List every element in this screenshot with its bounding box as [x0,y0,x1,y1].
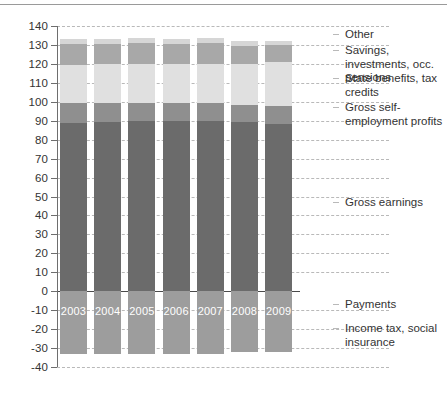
bar-segment [60,39,87,44]
bar-segment [231,41,258,46]
bar-segment [265,124,292,292]
chart-figure: 1401301201101009080706050403020100-10-20… [0,0,447,394]
legend-tick [333,34,339,35]
y-axis-tick-label: 80 [0,134,48,146]
bar-2007: 2007 [197,26,224,367]
bar-segment [128,103,155,121]
bar-segment [60,44,87,65]
bar-segment-negative [128,291,155,354]
y-axis-tick-label: 120 [0,58,48,70]
y-axis-tick-label: 0 [0,285,48,297]
bar-segment [197,121,224,292]
bar-segment [163,121,190,292]
y-axis-tick-label: -20 [0,323,48,335]
legend-tick [333,78,339,79]
bar-segment-negative [231,291,258,352]
bar-segment [128,64,155,103]
legend-item: Payments [345,298,445,312]
bar-2005: 2005 [128,26,155,367]
bar-segment [265,45,292,62]
bar-segment [163,64,190,103]
legend-item: Gross earnings [345,196,445,210]
bar-segment-negative [60,291,87,354]
bar-segment [60,103,87,123]
bar-2006: 2006 [163,26,190,367]
legend-tick [333,202,339,203]
legend-tick [333,50,339,51]
y-axis-tick-label: -40 [0,361,48,373]
legend-item: Income tax, social insurance [345,322,445,349]
bar-segment [197,43,224,64]
bar-segment [265,106,292,124]
bar-segment [197,103,224,121]
y-axis-tick-label: 50 [0,191,48,203]
y-axis-tick-label: 110 [0,77,48,89]
y-axis-tick [51,367,57,368]
legend-tick [333,328,339,329]
bar-segment [197,38,224,43]
bar-segment [94,122,121,292]
y-axis-tick-label: 90 [0,115,48,127]
bar-segment-negative [163,291,190,354]
y-axis-tick-label: 60 [0,172,48,184]
bar-segment [265,41,292,45]
bar-segment [163,39,190,44]
legend-item: Other [345,28,445,42]
bar-segment [94,39,121,44]
bar-segment [128,43,155,64]
y-axis-tick-label: -30 [0,342,48,354]
bar-segment [94,103,121,122]
bar-2008: 2008 [231,26,258,367]
legend-tick [333,304,339,305]
y-axis-tick-label: -10 [0,304,48,316]
y-axis-tick-label: 140 [0,20,48,32]
y-axis-tick-label: 10 [0,266,48,278]
bar-segment [231,122,258,292]
bar-segment [197,64,224,103]
y-axis-tick-label: 40 [0,209,48,221]
y-axis-tick-label: 100 [0,96,48,108]
bar-segment [231,105,258,122]
bar-segment [231,64,258,105]
y-axis-tick-label: 20 [0,247,48,259]
y-axis-tick-label: 130 [0,39,48,51]
bar-2003: 2003 [60,26,87,367]
bar-segment [128,121,155,292]
bar-segment [163,44,190,64]
bar-segment [60,65,87,103]
legend-tick [333,107,339,108]
bar-segment-negative [197,291,224,354]
legend-item: Gross self-employment profits [345,101,445,128]
y-axis-tick-label: 70 [0,153,48,165]
plot-area: 2003200420052006200720082009 [57,26,300,367]
bar-segment [231,46,258,64]
gridline [57,367,389,368]
bar-segment [265,62,292,106]
bar-segment [163,103,190,121]
bar-segment [128,38,155,43]
bar-segment [94,44,121,64]
top-divider-rule [0,4,447,5]
bar-2009: 2009 [265,26,292,367]
bar-segment-negative [265,291,292,352]
bar-segment-negative [94,291,121,354]
y-axis-tick-label: 30 [0,228,48,240]
bar-2004: 2004 [94,26,121,367]
legend-item: State benefits, tax credits [345,72,445,99]
bar-segment [94,64,121,103]
bar-segment [60,123,87,292]
